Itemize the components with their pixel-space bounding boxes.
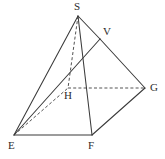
edge-S-H	[68, 16, 78, 88]
edge-V-G	[100, 39, 145, 88]
edge-F-G	[92, 88, 145, 135]
edge-S-E	[14, 16, 78, 135]
edge-S-F	[78, 16, 92, 135]
edge-E-V	[14, 39, 100, 135]
vertex-label-E: E	[8, 140, 15, 151]
figure-canvas	[0, 0, 165, 159]
vertex-label-G: G	[150, 82, 158, 93]
vertex-label-S: S	[74, 1, 80, 12]
vertex-label-H: H	[64, 90, 72, 101]
edge-E-H	[14, 88, 68, 135]
edge-S-V	[78, 16, 100, 39]
vertex-label-V: V	[103, 26, 111, 37]
edge-group-dashed	[14, 16, 145, 135]
geometry-figure: S V G H E F	[0, 0, 165, 159]
vertex-label-F: F	[88, 140, 94, 151]
edge-group-solid	[14, 16, 145, 135]
